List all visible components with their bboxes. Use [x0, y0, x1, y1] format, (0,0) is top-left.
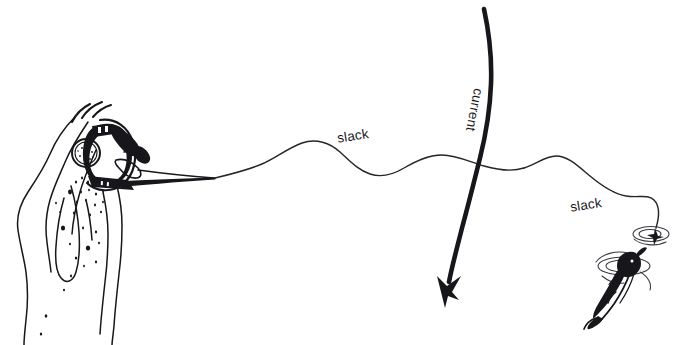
fishing-diagram-svg	[0, 0, 682, 345]
illustration-canvas: slack slack current	[0, 0, 682, 345]
canvas-background	[0, 0, 682, 345]
